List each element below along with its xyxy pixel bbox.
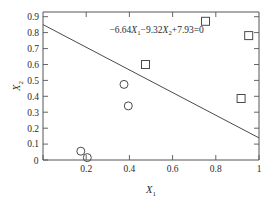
y-axis-tick-labels: 0.1 0.2 0.3 0.4 0.5 0.6 0.7 0.8 0.9	[27, 12, 39, 149]
data-point-square	[245, 32, 253, 40]
series-circles	[77, 80, 133, 161]
equation-term-1: −6.64	[109, 25, 131, 35]
x-tick-label-0.8: 0.8	[210, 164, 222, 174]
data-point-square	[237, 95, 245, 103]
y-axis-title: X2	[11, 81, 25, 92]
y-tick-label-0.6: 0.6	[27, 60, 39, 70]
data-point-circle	[77, 147, 85, 155]
y-tick-label-0.3: 0.3	[27, 108, 39, 118]
equation-annotation-group: −6.64X1−9.32X2+7.93=0	[88, 25, 221, 36]
x-tick-label-0.2: 0.2	[80, 164, 92, 174]
x-axis-ticks-top	[86, 12, 216, 17]
y-tick-label-0.5: 0.5	[27, 76, 39, 86]
chart-figure: 0 0.2 0.4 0.6 0.8 1 0.1 0.2 0.3 0.4 0.5 …	[0, 0, 276, 199]
equation-annotation: −6.64X1−9.32X2+7.93=0	[88, 25, 221, 36]
equation-term-3: +7.93=0	[172, 25, 204, 35]
discriminant-boundary-line	[43, 25, 259, 138]
scatter-plot: 0 0.2 0.4 0.6 0.8 1 0.1 0.2 0.3 0.4 0.5 …	[0, 0, 276, 199]
data-point-circle	[120, 80, 128, 88]
x-tick-label-0: 0	[34, 156, 39, 166]
x-axis-title: X1	[145, 184, 156, 198]
y-tick-label-0.2: 0.2	[27, 124, 39, 134]
y-tick-label-0.4: 0.4	[27, 92, 39, 102]
x-axis-ticks	[43, 155, 259, 160]
x-axis-title-sub: 1	[152, 190, 156, 198]
discriminant-line-group	[43, 25, 259, 138]
data-point-circle	[124, 102, 132, 110]
y-axis-ticks	[43, 17, 48, 160]
x-tick-label-1: 1	[257, 164, 262, 174]
y-axis-ticks-right	[254, 17, 259, 144]
y-tick-label-0.1: 0.1	[27, 139, 39, 149]
x-tick-label-0.4: 0.4	[123, 164, 135, 174]
y-tick-label-0.9: 0.9	[27, 12, 39, 22]
y-axis-title-sub: 2	[17, 81, 25, 85]
x-tick-label-0.6: 0.6	[167, 164, 179, 174]
y-tick-label-0.8: 0.8	[27, 28, 39, 38]
x-axis-tick-labels: 0 0.2 0.4 0.6 0.8 1	[34, 156, 262, 174]
data-point-square	[142, 61, 150, 69]
y-tick-label-0.7: 0.7	[27, 44, 39, 54]
equation-term-2: −9.32	[141, 25, 163, 35]
